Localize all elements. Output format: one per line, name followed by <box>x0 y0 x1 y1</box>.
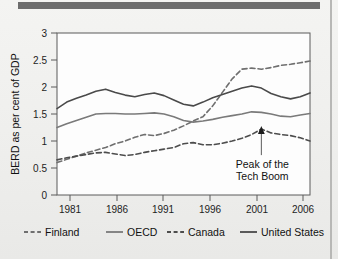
page-background: 0 0.5 1 1.5 2 2.5 3 BERD as per cent of … <box>0 0 338 259</box>
y-tick-label-2: 1 <box>41 136 47 147</box>
x-tick-label-1991: 1991 <box>152 204 175 215</box>
legend-label-finland[interactable]: Finland <box>45 226 80 238</box>
y-tick-label-3: 1.5 <box>33 109 47 120</box>
top-divider-rule <box>18 2 320 9</box>
y-tick-label-4: 2 <box>41 82 47 93</box>
y-tick-label-5: 2.5 <box>33 55 47 66</box>
x-tick-label-2001: 2001 <box>246 204 269 215</box>
x-tick-label-1981: 1981 <box>59 204 82 215</box>
x-tick-label-1996: 1996 <box>199 204 222 215</box>
legend-label-united-states[interactable]: United States <box>261 226 324 238</box>
x-tick-label-1986: 1986 <box>106 204 129 215</box>
y-axis-title: BERD as per cent of GDP <box>9 53 21 174</box>
legend-label-oecd[interactable]: OECD <box>127 226 158 238</box>
x-tick-label-2006: 2006 <box>292 204 315 215</box>
y-axis: 0 0.5 1 1.5 2 2.5 3 <box>33 28 57 201</box>
legend-label-canada[interactable]: Canada <box>188 226 225 238</box>
line-chart: 0 0.5 1 1.5 2 2.5 3 BERD as per cent of … <box>0 12 330 255</box>
annotation-line-2: Tech Boom <box>236 170 289 182</box>
chart-legend: FinlandOECDCanadaUnited States <box>24 226 324 238</box>
annotation-line-1: Peak of the <box>236 158 289 170</box>
right-page-border <box>330 0 332 259</box>
y-tick-label-1: 0.5 <box>33 163 47 174</box>
y-tick-label-0: 0 <box>41 190 47 201</box>
y-tick-label-6: 3 <box>41 28 47 39</box>
x-axis: 1981 1986 1991 1996 2001 2006 <box>59 195 315 215</box>
chart-figure: 0 0.5 1 1.5 2 2.5 3 BERD as per cent of … <box>0 12 330 255</box>
